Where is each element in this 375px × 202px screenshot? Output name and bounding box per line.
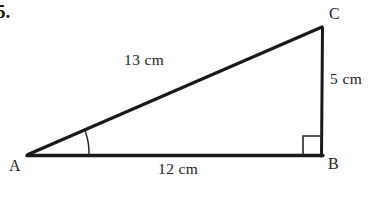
geometry-figure: 5. A B C 13 cm 12 cm 5 cm	[0, 0, 375, 202]
side-label-bc: 5 cm	[330, 70, 362, 88]
side-ac-line	[28, 27, 322, 155]
vertex-label-c: C	[329, 5, 340, 23]
side-label-ab: 12 cm	[158, 160, 198, 178]
side-label-ac: 13 cm	[124, 51, 164, 69]
angle-arc-icon	[85, 131, 89, 154]
vertex-label-b: B	[328, 155, 339, 173]
side-bc-line	[322, 28, 323, 156]
right-angle-marker-icon	[303, 136, 322, 155]
vertex-label-a: A	[9, 157, 21, 175]
